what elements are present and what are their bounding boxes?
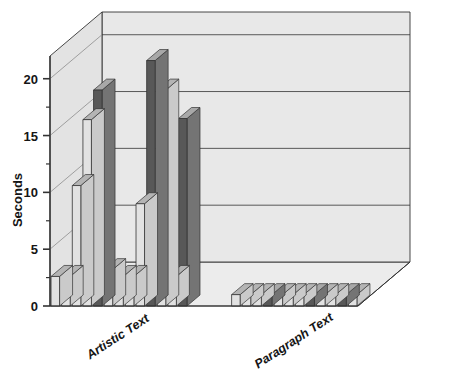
y-tick-label-5: 5 (31, 242, 38, 257)
y-tick-label-10: 10 (24, 185, 38, 200)
bar-chart-3d: 20 15 10 5 0 Seconds Artistic Text Parag… (0, 0, 458, 392)
category-label-artistic-text: Artistic Text (83, 311, 152, 363)
y-tick-label-0: 0 (31, 299, 38, 314)
chart-container: 20 15 10 5 0 Seconds Artistic Text Parag… (0, 0, 458, 392)
y-axis-title: Seconds (10, 173, 25, 227)
y-tick-label-15: 15 (24, 129, 38, 144)
y-tick-label-20: 20 (24, 72, 38, 87)
category-label-paragraph-text: Paragraph Text (252, 310, 336, 372)
